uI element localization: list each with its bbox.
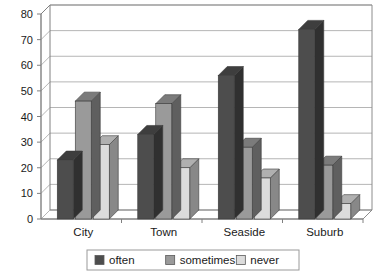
y-tick-label-50: 50 xyxy=(21,85,33,97)
legend-item-never[interactable]: never xyxy=(236,254,279,266)
gridline-depth-40 xyxy=(41,108,50,117)
legend-label-often: often xyxy=(109,254,135,266)
x-tick-label-seaside: Seaside xyxy=(223,226,265,238)
legend-swatch-sometimes xyxy=(166,256,175,265)
bar-front-face xyxy=(57,160,73,219)
bar-town-often xyxy=(138,125,163,219)
bar-city-often xyxy=(57,151,82,219)
bar-side-face xyxy=(172,95,181,219)
y-axis-top-cap xyxy=(41,5,50,14)
chart-canvas: 01020304050607080CityTownSeasideSuburbof… xyxy=(0,0,385,279)
gridline-depth-30 xyxy=(41,133,50,142)
bar-side-face xyxy=(252,138,261,219)
bar-seaside-often xyxy=(218,67,243,220)
x-tick-label-town: Town xyxy=(150,226,177,238)
legend-swatch-never xyxy=(236,256,245,265)
legend-swatch-often xyxy=(95,256,104,265)
y-tick-label-40: 40 xyxy=(21,111,33,123)
bar-suburb-often xyxy=(299,20,324,219)
legend-label-sometimes: sometimes xyxy=(180,254,236,266)
gridline-depth-60 xyxy=(41,56,50,65)
bar-side-face xyxy=(154,125,163,219)
gridline-depth-10 xyxy=(41,184,50,193)
y-tick-label-10: 10 xyxy=(21,187,33,199)
bar-side-face xyxy=(315,20,324,219)
y-tick-label-30: 30 xyxy=(21,136,33,148)
gridline-depth-0 xyxy=(41,210,50,219)
y-tick-label-20: 20 xyxy=(21,162,33,174)
legend-label-never: never xyxy=(250,254,279,266)
y-tick-label-80: 80 xyxy=(21,8,33,20)
floor-right-edge xyxy=(363,210,372,219)
legend-item-often[interactable]: often xyxy=(95,254,135,266)
bar-front-face xyxy=(138,134,154,219)
gridline-depth-70 xyxy=(41,31,50,40)
bar-side-face xyxy=(190,159,199,219)
y-tick-label-0: 0 xyxy=(27,213,33,225)
y-tick-label-70: 70 xyxy=(21,34,33,46)
bar-front-face xyxy=(299,29,315,219)
x-tick-label-suburb: Suburb xyxy=(306,226,343,238)
gridline-depth-50 xyxy=(41,82,50,91)
bar-side-face xyxy=(73,151,82,219)
gridline-depth-20 xyxy=(41,159,50,168)
x-tick-label-city: City xyxy=(73,226,93,238)
bar-side-face xyxy=(333,156,342,219)
bar-side-face xyxy=(109,136,118,219)
bar-side-face xyxy=(234,67,243,220)
bar-side-face xyxy=(91,92,100,219)
bar-chart: 01020304050607080CityTownSeasideSuburbof… xyxy=(0,0,385,279)
legend-layer: oftensometimesnever xyxy=(87,250,299,270)
y-tick-label-60: 60 xyxy=(21,59,33,71)
bar-front-face xyxy=(218,76,234,220)
